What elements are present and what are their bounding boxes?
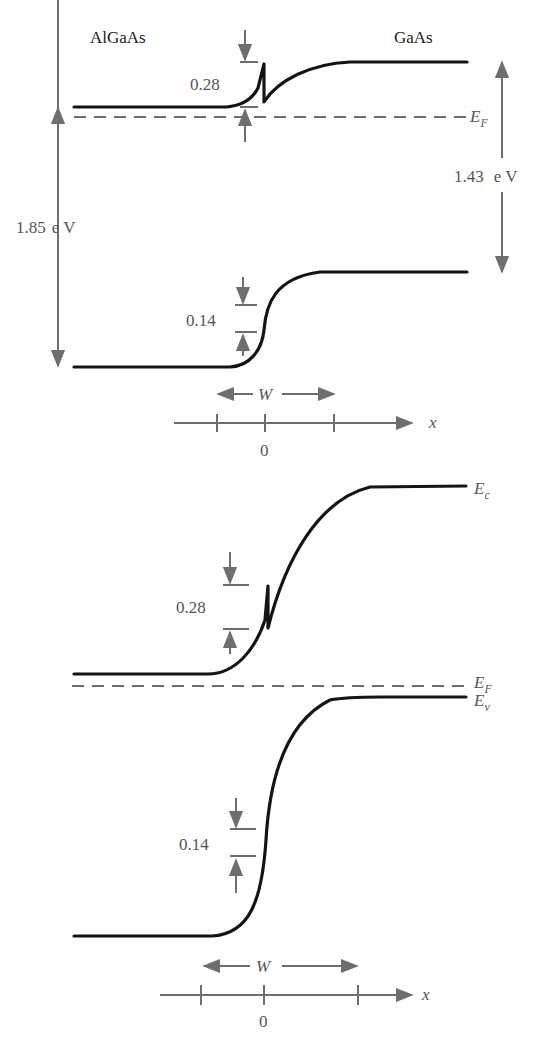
origin-label-a: 0 [260,441,269,460]
valence-band-a [74,272,467,367]
conduction-band-b [74,486,466,674]
x-axis-label-b: x [421,985,430,1004]
x-axis-label-a: x [428,413,437,432]
origin-label-b: 0 [259,1012,268,1031]
depletion-width-label-b: W [256,957,272,976]
material-label-gaas: GaAs [394,28,433,47]
ec-label: Ec [473,479,490,502]
conduction-offset-label-b: 0.28 [176,598,206,617]
diagram-a: AlGaAs GaAs EF 0.28 0.14 1.85e V 1.43e V [16,0,518,460]
gap-label-algaas: 1.85e V [16,218,76,237]
valence-offset-label-a: 0.14 [186,311,216,330]
diagram-b: Ec EF Ev 0.28 0.14 W x 0 [72,479,492,1031]
valence-offset-label-b: 0.14 [179,835,209,854]
valence-band-b [74,697,466,936]
conduction-offset-label-a: 0.28 [190,75,220,94]
band-diagram-canvas: AlGaAs GaAs EF 0.28 0.14 1.85e V 1.43e V [0,0,557,1042]
material-label-algaas: AlGaAs [90,28,146,47]
fermi-label-a: EF [469,107,488,130]
conduction-band-a [74,62,467,107]
gap-label-gaas: 1.43e V [454,167,518,186]
depletion-width-label-a: W [258,385,274,404]
